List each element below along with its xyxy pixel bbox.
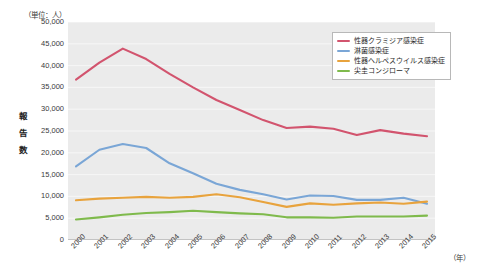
x-tick-label: 2015 [420,232,438,250]
x-tick-label: 2004 [163,232,181,250]
legend: 性器クラミジア感染症淋菌感染症性器ヘルペスウイルス感染症尖圭コンジローマ [332,32,451,80]
x-tick-label: 2006 [209,232,227,250]
x-tick-label: 2014 [397,232,415,250]
legend-item-label: 尖圭コンジローマ [354,66,410,76]
x-tick-label: 2011 [326,233,344,251]
legend-item: 淋菌感染症 [337,46,445,56]
x-axis-unit-label: （年） [449,252,470,263]
legend-color-swatch [337,70,350,73]
x-tick-label: 2009 [280,232,298,250]
legend-color-swatch [337,60,350,63]
x-tick-label: 2010 [303,232,321,250]
x-tick-label: 2005 [186,232,204,250]
x-tick-label: 2013 [373,232,391,250]
x-tick-label: 2000 [69,232,87,250]
line-chart: （単位：人） 報告数 50,00045,00040,00035,00030,00… [0,0,480,273]
x-tick-label: 2002 [116,232,134,250]
legend-color-swatch [337,40,350,43]
x-tick-label: 2007 [233,232,251,250]
legend-item-label: 淋菌感染症 [354,46,389,56]
legend-item-label: 性器クラミジア感染症 [354,36,424,46]
x-tick-label: 2003 [139,232,157,250]
x-tick-label: 2012 [350,232,368,250]
x-tick-label: 2001 [92,232,110,250]
legend-color-swatch [337,50,350,53]
legend-item-label: 性器ヘルペスウイルス感染症 [354,56,445,66]
legend-item: 性器ヘルペスウイルス感染症 [337,56,445,66]
legend-item: 性器クラミジア感染症 [337,36,445,46]
x-tick-label: 2008 [256,232,274,250]
legend-item: 尖圭コンジローマ [337,66,445,76]
